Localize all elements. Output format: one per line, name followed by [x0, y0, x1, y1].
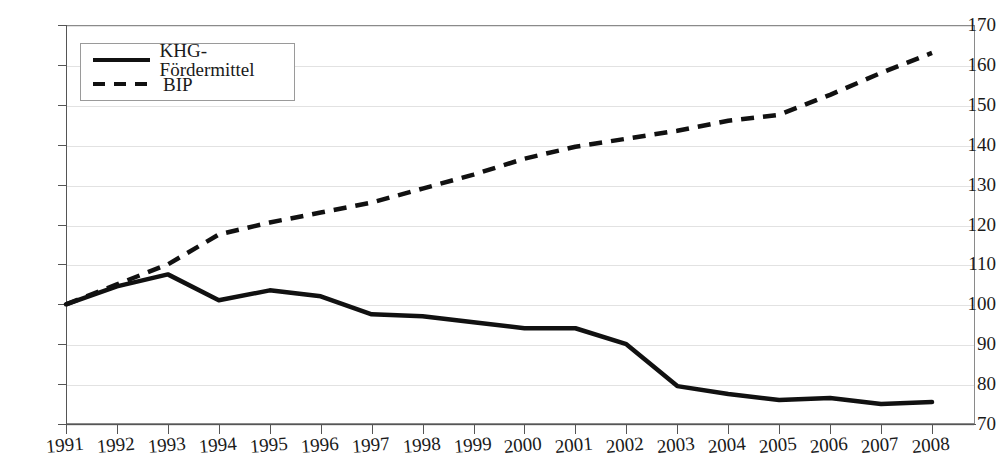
y-axis-tick-label: 170	[944, 15, 996, 34]
x-axis-tick-mark	[117, 425, 118, 434]
x-axis-tick-label: 1992	[96, 434, 136, 457]
x-axis-tick-mark	[219, 425, 220, 434]
x-axis-tick-mark	[66, 425, 67, 434]
x-axis-tick-label: 1999	[453, 434, 493, 457]
y-axis-tick-label: 100	[944, 294, 996, 313]
legend-entry-bip: BIP	[93, 72, 193, 96]
x-axis-tick-mark	[779, 425, 780, 434]
y-axis-tick-label: 90	[944, 334, 996, 353]
gridline	[67, 26, 974, 27]
x-axis-tick-label: 1997	[351, 434, 391, 457]
x-axis-tick-mark	[830, 425, 831, 434]
x-axis-tick-label: 2008	[911, 434, 951, 457]
y-axis-tick-label: 130	[944, 175, 996, 194]
x-axis-tick-mark	[321, 425, 322, 434]
x-axis-tick-label: 1994	[198, 434, 238, 457]
y-axis-tick-label: 80	[944, 374, 996, 393]
x-axis-tick-label: 1996	[300, 434, 340, 457]
gridline	[67, 425, 974, 426]
x-axis-tick-mark	[575, 425, 576, 434]
y-axis-line	[66, 25, 67, 425]
x-axis-tick-label: 2007	[860, 434, 900, 457]
gridline	[67, 106, 974, 107]
y-axis-tick-label: 120	[944, 215, 996, 234]
x-axis-tick-label: 1991	[45, 434, 85, 457]
x-axis-tick-label: 1998	[402, 434, 442, 457]
x-axis-tick-label: 2006	[809, 434, 849, 457]
x-axis-tick-label: 2005	[758, 434, 798, 457]
x-axis-tick-mark	[881, 425, 882, 434]
x-axis-tick-mark	[524, 425, 525, 434]
x-axis-tick-label: 2001	[554, 434, 594, 457]
legend-entry-khg-foerdermittel: KHG-Fördermittel	[93, 48, 294, 72]
legend-swatch-solid-icon	[93, 58, 150, 62]
gridline	[67, 146, 974, 147]
x-axis-tick-mark	[728, 425, 729, 434]
x-axis-tick-label: 2000	[503, 434, 543, 457]
gridline	[67, 345, 974, 346]
x-axis-tick-mark	[932, 425, 933, 434]
x-axis-tick-label: 2002	[605, 434, 645, 457]
chart-legend: KHG-Fördermittel BIP	[80, 43, 295, 101]
x-axis-tick-mark	[423, 425, 424, 434]
x-axis-tick-label: 1993	[147, 434, 187, 457]
x-axis-tick-mark	[626, 425, 627, 434]
gridline	[67, 265, 974, 266]
gridline	[67, 305, 974, 306]
line-chart: 708090100110120130140150160170 199119921…	[0, 0, 996, 468]
x-axis-tick-label: 2003	[656, 434, 696, 457]
gridline	[67, 226, 974, 227]
legend-swatch-dashed-icon	[93, 82, 153, 86]
y-axis-tick-label: 150	[944, 95, 996, 114]
gridline	[67, 186, 974, 187]
x-axis-tick-mark	[168, 425, 169, 434]
x-axis-line	[66, 424, 976, 425]
x-axis-tick-label: 1995	[249, 434, 289, 457]
x-axis-tick-mark	[677, 425, 678, 434]
legend-label: BIP	[163, 75, 193, 94]
x-axis-tick-label: 2004	[707, 434, 747, 457]
y-axis-tick-label: 110	[944, 254, 996, 273]
y-axis-tick-label: 140	[944, 135, 996, 154]
x-axis-tick-mark	[372, 425, 373, 434]
gridline	[67, 385, 974, 386]
y-axis-tick-label: 160	[944, 55, 996, 74]
x-axis-tick-mark	[474, 425, 475, 434]
x-axis-tick-mark	[270, 425, 271, 434]
